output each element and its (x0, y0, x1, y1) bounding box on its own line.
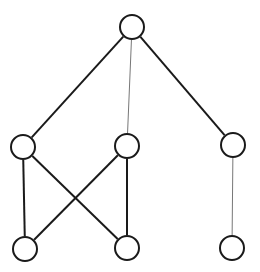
graph-edge (32, 37, 124, 138)
graph-node[interactable] (221, 133, 245, 157)
graph-edge (140, 37, 224, 135)
graph-edge (23, 160, 25, 236)
graph-node[interactable] (115, 134, 139, 158)
graph-canvas (0, 0, 260, 272)
graph-node[interactable] (115, 236, 139, 260)
graph-node[interactable] (120, 15, 144, 39)
graph-node[interactable] (220, 236, 244, 260)
graph-node[interactable] (11, 135, 35, 159)
graph-edge (128, 40, 132, 133)
graph-diagram (0, 0, 260, 272)
graph-node[interactable] (13, 237, 37, 261)
graph-edge (232, 158, 233, 235)
